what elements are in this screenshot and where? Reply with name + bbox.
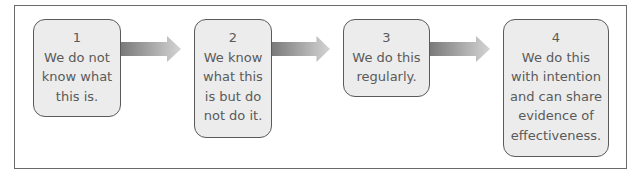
right-arrow-icon [430,36,490,62]
stage-4-box: 4 We do this with intention and can shar… [503,19,609,157]
stage-1-text: We do not know what this is. [34,48,120,107]
stage-3-box: 3 We do this regularly. [343,19,430,97]
arrow-1-to-2 [121,36,181,62]
stage-3-text: We do this regularly. [344,48,429,87]
stage-2-text: We know what this is but do not do it. [195,48,271,126]
arrow-3-to-4 [430,36,490,62]
stage-3-number: 3 [344,28,429,48]
stage-2-box: 2 We know what this is but do not do it. [194,19,272,138]
right-arrow-icon [121,36,181,62]
stage-1-box: 1 We do not know what this is. [33,19,121,117]
right-arrow-icon [272,36,330,62]
stage-4-text: We do this with intention and can share … [504,48,608,146]
stage-4-number: 4 [504,28,608,48]
stage-1-number: 1 [34,28,120,48]
stage-2-number: 2 [195,28,271,48]
arrow-2-to-3 [272,36,330,62]
